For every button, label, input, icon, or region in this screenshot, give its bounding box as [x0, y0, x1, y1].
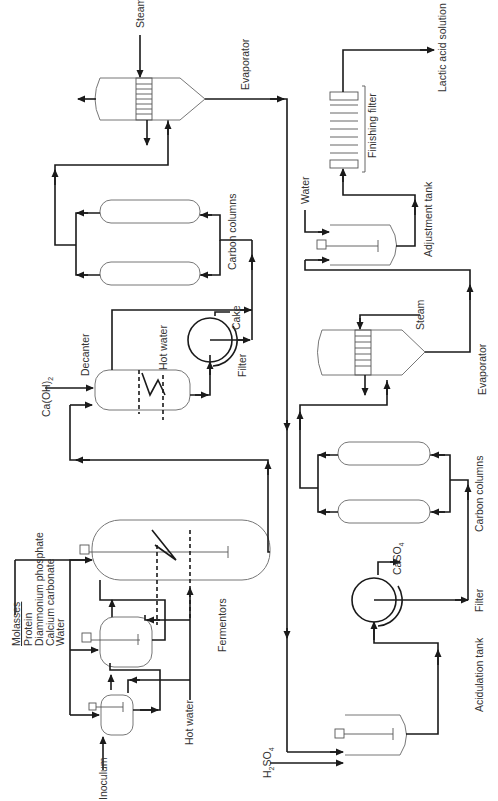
label-hot-water-decanter: Hot water — [157, 325, 169, 370]
label-acidulation-tank: Acidulation tank — [473, 637, 485, 712]
label-filter-1: Filter — [236, 353, 248, 377]
label-filter-2: Filter — [473, 588, 485, 612]
adjustment-tank — [317, 225, 397, 265]
label-steam-1: Steam — [134, 0, 146, 28]
label-evaporator-2: Evaporator — [476, 343, 488, 395]
label-h2so4: H2SO4 — [261, 747, 275, 778]
label-caso4: CaSO4 — [391, 542, 405, 575]
label-water-adjust: Water — [299, 176, 311, 204]
carbon-column-1b — [100, 262, 200, 285]
feed-bus — [70, 560, 85, 715]
fermentor — [80, 520, 270, 625]
decanter — [95, 370, 190, 420]
label-decanter: Decanter — [79, 333, 91, 376]
label-carbon-columns-2: Carbon columns — [473, 456, 485, 532]
label-carbon-columns-1: Carbon columns — [226, 194, 238, 270]
label-cake: Cake — [230, 305, 242, 330]
seed-tank-2 — [82, 617, 152, 667]
label-adjustment-tank: Adjustment tank — [422, 181, 434, 257]
carbon-column-2b — [338, 500, 430, 523]
label-hot-water-seed: Hot water — [183, 700, 195, 745]
label-fermentors: Fermentors — [216, 598, 228, 652]
label-finishing-filter: Finishing filter — [366, 93, 378, 158]
label-evaporator-1: Evaporator — [239, 38, 251, 90]
label-steam-2: Steam — [414, 299, 426, 330]
evaporator-1 — [95, 78, 205, 120]
process-flow-diagram: Molasses Protein Diammonium phosphate Ca… — [0, 0, 498, 801]
finishing-filter — [330, 86, 365, 172]
carbon-column-2a — [338, 442, 430, 465]
acidulation-tank — [335, 715, 407, 755]
label-water-feed: Water — [54, 618, 66, 646]
label-molasses: Molasses — [10, 602, 22, 646]
carbon-column-1a — [100, 200, 200, 223]
evaporator-2 — [318, 330, 426, 375]
label-caoh2: Ca(OH)2 — [40, 377, 54, 417]
label-inoculum: Inoculum — [97, 757, 109, 800]
label-lactic-acid-solution: Lactic acid solution — [436, 3, 448, 92]
rotary-filter-2 — [352, 578, 468, 626]
